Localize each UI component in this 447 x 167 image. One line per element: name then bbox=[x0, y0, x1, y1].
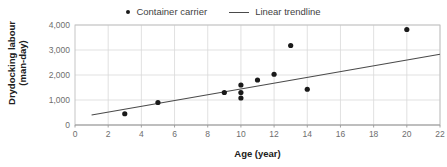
svg-text:4,000: 4,000 bbox=[49, 20, 71, 30]
svg-text:0: 0 bbox=[65, 120, 70, 130]
svg-text:12: 12 bbox=[269, 129, 279, 139]
scatter-chart: Container carrier Linear trendline Drydo… bbox=[0, 0, 447, 167]
svg-text:18: 18 bbox=[369, 129, 379, 139]
scatter-series bbox=[122, 27, 409, 116]
svg-text:6: 6 bbox=[172, 129, 177, 139]
svg-text:2,000: 2,000 bbox=[49, 70, 71, 80]
svg-text:10: 10 bbox=[236, 129, 246, 139]
svg-text:20: 20 bbox=[402, 129, 412, 139]
svg-text:14: 14 bbox=[303, 129, 313, 139]
svg-text:4: 4 bbox=[139, 129, 144, 139]
svg-text:22: 22 bbox=[435, 129, 445, 139]
trendline-series bbox=[92, 54, 440, 115]
svg-text:0: 0 bbox=[73, 129, 78, 139]
svg-text:3,000: 3,000 bbox=[49, 45, 71, 55]
svg-text:8: 8 bbox=[205, 129, 210, 139]
svg-text:2: 2 bbox=[106, 129, 111, 139]
x-tick-labels: 0246810121416182022 bbox=[73, 125, 445, 139]
svg-text:16: 16 bbox=[336, 129, 346, 139]
y-tick-labels: 01,0002,0003,0004,000 bbox=[49, 20, 71, 130]
plot-area: 01,0002,0003,0004,000 024681012141618202… bbox=[0, 0, 447, 167]
svg-text:1,000: 1,000 bbox=[49, 95, 71, 105]
grid-lines bbox=[75, 25, 440, 125]
x-axis-title: Age (year) bbox=[75, 148, 440, 159]
